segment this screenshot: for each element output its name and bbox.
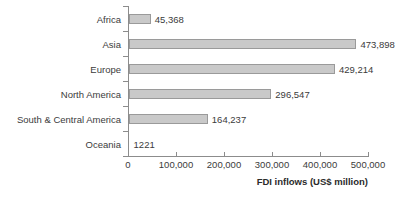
category-label: Africa	[97, 13, 121, 24]
y-axis-tick	[123, 131, 129, 132]
bar-row: Europe429,214	[0, 56, 407, 81]
y-axis-tick	[123, 31, 129, 32]
y-axis-tick	[123, 6, 129, 7]
x-axis-tick	[368, 152, 369, 157]
bar	[129, 39, 356, 49]
bar-row: South & Central America164,237	[0, 106, 407, 131]
bar	[129, 14, 151, 24]
x-axis-tick-label: 0	[125, 159, 130, 170]
bar-row: Africa45,368	[0, 6, 407, 31]
y-axis-tick	[123, 56, 129, 57]
bar-row: Oceania1221	[0, 131, 407, 156]
y-axis-tick	[123, 106, 129, 107]
x-axis-tick-label: 200,000	[207, 159, 241, 170]
bar	[129, 139, 130, 149]
x-axis-tick-label: 400,000	[303, 159, 337, 170]
category-label: South & Central America	[17, 113, 121, 124]
x-axis-tick-label: 500,000	[351, 159, 385, 170]
bar-value-label: 1221	[134, 138, 155, 149]
bar-value-label: 429,214	[339, 63, 373, 74]
bar-row: Asia473,898	[0, 31, 407, 56]
x-axis-tick	[224, 152, 225, 157]
bar-chart: Africa45,368Asia473,898Europe429,214Nort…	[0, 0, 407, 197]
bar-row: North America296,547	[0, 81, 407, 106]
x-axis-tick	[128, 152, 129, 157]
bar-value-label: 473,898	[360, 38, 394, 49]
bar	[129, 64, 335, 74]
category-label: Oceania	[86, 138, 121, 149]
x-axis-tick-label: 100,000	[159, 159, 193, 170]
x-axis-tick	[176, 152, 177, 157]
x-axis-tick-label: 300,000	[255, 159, 289, 170]
x-axis-line	[128, 156, 368, 157]
bar-value-label: 296,547	[275, 88, 309, 99]
x-axis-tick	[320, 152, 321, 157]
category-label: Asia	[103, 38, 121, 49]
x-axis-tick	[272, 152, 273, 157]
bar	[129, 89, 271, 99]
category-label: North America	[61, 88, 121, 99]
category-label: Europe	[90, 63, 121, 74]
plot-area: Africa45,368Asia473,898Europe429,214Nort…	[0, 0, 407, 197]
bar-value-label: 164,237	[212, 113, 246, 124]
y-axis-tick	[123, 81, 129, 82]
bar	[129, 114, 208, 124]
x-axis-title: FDI inflows (US$ million)	[257, 176, 368, 187]
bar-value-label: 45,368	[155, 13, 184, 24]
